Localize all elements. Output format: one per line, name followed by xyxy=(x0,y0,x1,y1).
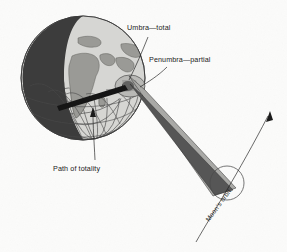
umbra-label: Umbra—total xyxy=(127,23,171,32)
path-of-totality-label: Path of totality xyxy=(53,164,100,173)
eclipse-diagram: Umbra—total Penumbra—partial Path of tot… xyxy=(0,0,287,252)
penumbra-label: Penumbra—partial xyxy=(149,55,211,64)
